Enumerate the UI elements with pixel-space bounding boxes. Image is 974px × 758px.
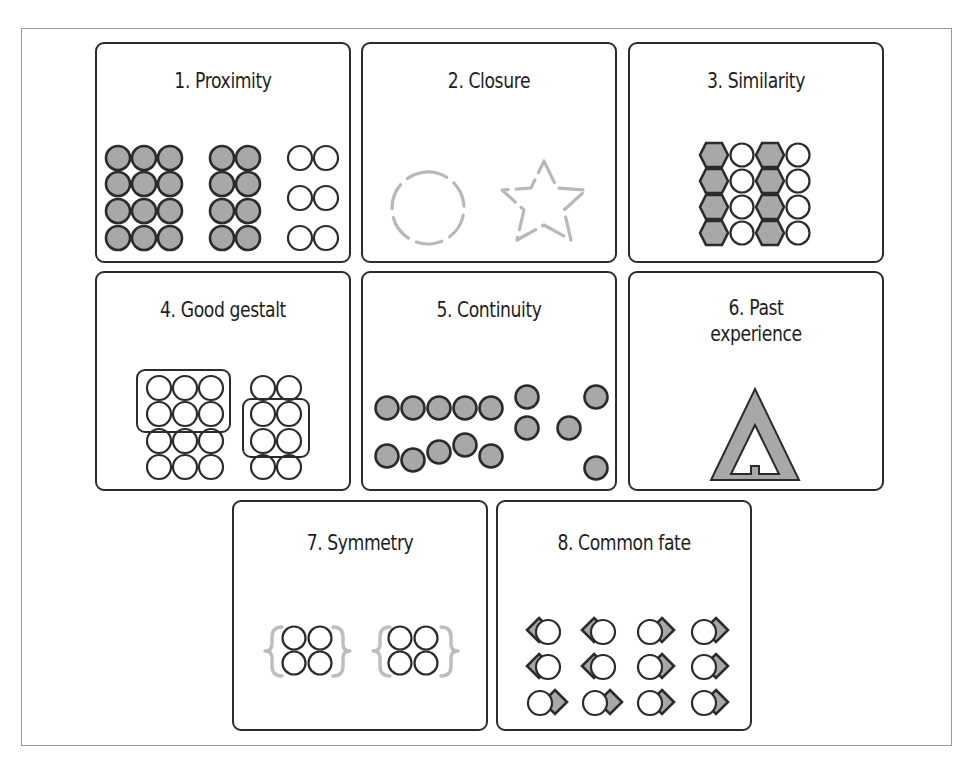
arrow-triangle-icon	[711, 389, 799, 480]
closure-shapes	[386, 161, 586, 250]
dashed-circle-icon	[386, 166, 469, 249]
good-gestalt-shapes	[137, 370, 309, 479]
proximity-dots	[106, 146, 338, 250]
gestalt-illustrations: .g { fill: #a8a8a8; stroke: #2b2b2b; str…	[0, 0, 974, 758]
similarity-shapes	[700, 143, 810, 245]
symmetry-shapes	[265, 627, 458, 677]
continuity-dots	[376, 386, 608, 480]
dashed-star-icon	[502, 161, 586, 240]
common-fate-shapes	[527, 618, 728, 715]
